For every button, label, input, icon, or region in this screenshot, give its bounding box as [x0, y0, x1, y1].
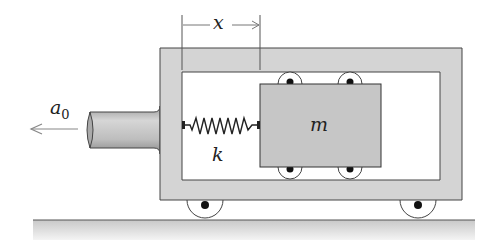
diagram-graphics: [0, 0, 490, 240]
spring: [182, 118, 260, 134]
ground: [33, 220, 475, 240]
mass-wheels-top: [278, 72, 362, 86]
spring-constant-label: k: [212, 143, 224, 165]
cart-wheel-right: [400, 200, 436, 218]
mass-label: m: [310, 113, 328, 135]
cart-wheel-left: [187, 200, 223, 218]
acceleration-arrow: [31, 124, 78, 134]
acceleration-symbol: a: [50, 96, 61, 118]
acceleration-label: a0: [50, 96, 70, 122]
mass-wheels-bottom: [278, 166, 362, 180]
displacement-label: x: [213, 11, 224, 33]
acceleration-subscript: 0: [61, 107, 69, 122]
push-rod: [87, 106, 160, 154]
spring-mass-cart-diagram: x a0 k m: [0, 0, 490, 240]
